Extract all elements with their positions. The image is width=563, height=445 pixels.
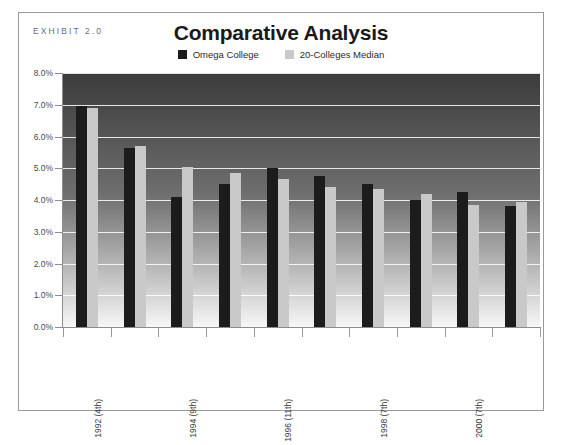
bar-median[interactable] xyxy=(468,205,479,327)
bar-median[interactable] xyxy=(278,179,289,327)
y-axis-tick-label: 4.0% xyxy=(23,195,53,205)
y-axis-tick xyxy=(55,105,63,106)
bar-median[interactable] xyxy=(182,167,193,327)
chart-title: Comparative Analysis xyxy=(19,21,543,45)
bar-omega-college[interactable] xyxy=(267,168,278,327)
bar-group[interactable] xyxy=(314,73,336,327)
bar-group[interactable] xyxy=(410,73,432,327)
bar-median[interactable] xyxy=(516,202,527,327)
y-axis-tick-label: 1.0% xyxy=(23,290,53,300)
x-axis-tick xyxy=(63,328,64,337)
bar-omega-college[interactable] xyxy=(219,184,230,327)
x-axis-tick xyxy=(445,328,446,337)
x-axis-tick xyxy=(254,328,255,337)
y-axis-tick xyxy=(55,295,63,296)
bar-omega-college[interactable] xyxy=(457,192,468,327)
bar-group[interactable] xyxy=(505,73,527,327)
y-axis-tick-label: 8.0% xyxy=(23,68,53,78)
y-axis-tick xyxy=(55,73,63,74)
bar-omega-college[interactable] xyxy=(76,106,87,327)
y-axis-tick-label: 3.0% xyxy=(23,227,53,237)
x-axis-tick xyxy=(349,328,350,337)
x-axis-tick-label: 1998 (7th) xyxy=(379,399,389,438)
bar-median[interactable] xyxy=(87,108,98,327)
y-axis-tick xyxy=(55,327,63,328)
bar-median[interactable] xyxy=(373,189,384,327)
bar-median[interactable] xyxy=(230,173,241,327)
y-axis-tick-label: 7.0% xyxy=(23,100,53,110)
exhibit-frame: EXHIBIT 2.0 Comparative Analysis Omega C… xyxy=(18,12,544,411)
x-axis-tick xyxy=(111,328,112,337)
bar-group[interactable] xyxy=(219,73,241,327)
bar-median[interactable] xyxy=(325,187,336,327)
plot-area-wrapper xyxy=(63,73,540,327)
bar-group[interactable] xyxy=(124,73,146,327)
x-axis-tick-label: 2000 (7th) xyxy=(474,399,484,438)
y-axis-tick xyxy=(55,264,63,265)
x-axis-tick-label: 1994 (9th) xyxy=(188,399,198,438)
legend-entry-median: 20-Colleges Median xyxy=(285,49,385,60)
bar-series-container xyxy=(63,73,540,327)
y-axis-tick-label: 0.0% xyxy=(23,322,53,332)
bar-omega-college[interactable] xyxy=(505,206,516,327)
bar-omega-college[interactable] xyxy=(410,200,421,327)
bar-group[interactable] xyxy=(76,73,98,327)
legend-label-omega-college: Omega College xyxy=(193,49,259,60)
y-axis-tick-label: 6.0% xyxy=(23,132,53,142)
chart-legend: Omega College 20-Colleges Median xyxy=(19,49,543,60)
bar-omega-college[interactable] xyxy=(314,176,325,327)
bar-omega-college[interactable] xyxy=(171,197,182,327)
legend-entry-omega-college: Omega College xyxy=(178,49,259,60)
bar-group[interactable] xyxy=(267,73,289,327)
y-axis-tick-label: 2.0% xyxy=(23,259,53,269)
y-axis-tick xyxy=(55,200,63,201)
legend-label-median: 20-Colleges Median xyxy=(300,49,385,60)
y-axis-tick xyxy=(55,168,63,169)
x-axis-tick xyxy=(540,328,541,337)
y-axis-tick-label: 5.0% xyxy=(23,163,53,173)
x-axis-tick xyxy=(492,328,493,337)
bar-group[interactable] xyxy=(362,73,384,327)
x-axis-tick-label: 1992 (4th) xyxy=(93,399,103,438)
bar-omega-college[interactable] xyxy=(362,184,373,327)
x-axis-tick-label: 1996 (11th) xyxy=(283,399,293,442)
legend-swatch-median xyxy=(285,50,294,59)
plot-area xyxy=(63,73,540,327)
x-axis-tick xyxy=(302,328,303,337)
y-axis-labels: 0.0%1.0%2.0%3.0%4.0%5.0%6.0%7.0%8.0% xyxy=(19,13,53,445)
bar-omega-college[interactable] xyxy=(124,148,135,327)
bar-median[interactable] xyxy=(135,146,146,327)
y-axis-tick xyxy=(55,232,63,233)
x-axis-tick xyxy=(397,328,398,337)
y-axis-tick xyxy=(55,137,63,138)
bar-group[interactable] xyxy=(171,73,193,327)
x-axis-tick xyxy=(158,328,159,337)
bar-group[interactable] xyxy=(457,73,479,327)
bar-median[interactable] xyxy=(421,194,432,327)
x-axis-tick xyxy=(206,328,207,337)
legend-swatch-omega-college xyxy=(178,50,187,59)
